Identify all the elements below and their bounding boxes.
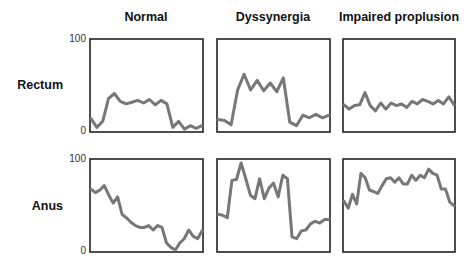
panel-frame <box>343 39 455 132</box>
trace-rectum-impaired-proplusion <box>344 93 454 111</box>
trace-anus-dyssynergia <box>218 163 329 239</box>
small-multiples-plot <box>0 0 472 266</box>
trace-anus-impaired-proplusion <box>344 169 454 208</box>
trace-rectum-dyssynergia <box>218 74 329 125</box>
panel-frame <box>217 159 330 252</box>
trace-rectum-normal <box>91 94 202 130</box>
trace-anus-normal <box>91 186 202 250</box>
panel-frame <box>90 39 203 132</box>
